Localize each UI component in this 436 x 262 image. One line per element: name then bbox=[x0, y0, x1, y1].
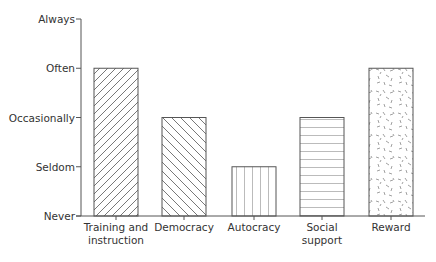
bar bbox=[300, 118, 344, 217]
x-tick-label: Reward bbox=[351, 221, 431, 234]
y-tick-label: Occasionally bbox=[9, 112, 75, 124]
bar bbox=[162, 118, 206, 217]
y-tick-label: Often bbox=[46, 62, 75, 74]
x-tick-label: Democracy bbox=[144, 221, 224, 234]
bar bbox=[232, 167, 276, 216]
bar-chart: NeverSeldomOccasionallyOftenAlways Train… bbox=[0, 0, 436, 262]
bar bbox=[369, 68, 413, 216]
bar bbox=[94, 68, 138, 216]
x-tick-label: Social support bbox=[282, 221, 362, 247]
y-tick-label: Seldom bbox=[36, 161, 75, 173]
y-tick-label: Always bbox=[38, 13, 75, 25]
y-tick-label: Never bbox=[44, 210, 75, 222]
